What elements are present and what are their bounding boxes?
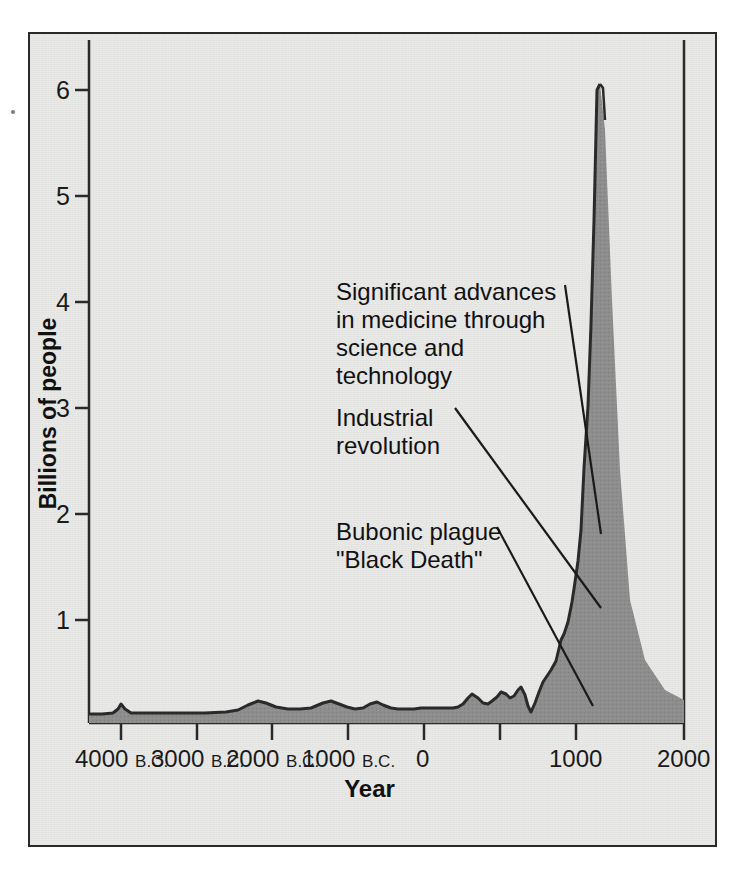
- x-tick-label-1000bc: 1000 B.C.: [302, 745, 395, 773]
- y-tick-label-5: 5: [30, 182, 70, 211]
- x-tick-value: 1000: [302, 745, 355, 772]
- y-tick-marks: [75, 90, 89, 620]
- leader-line-industrial: [455, 408, 601, 608]
- x-tick-value: 1000: [549, 745, 602, 772]
- annotation-industrial: Industrial revolution: [336, 404, 440, 460]
- y-tick-label-1: 1: [30, 606, 70, 635]
- x-tick-value: 2000: [226, 745, 279, 772]
- x-tick-label-0: 0: [416, 745, 429, 773]
- x-tick-value: 0: [416, 745, 429, 772]
- y-axis-title: Billions of people: [35, 304, 62, 524]
- x-tick-marks: [121, 723, 684, 740]
- y-tick-label-6: 6: [30, 76, 70, 105]
- chart-figure: 6 5 4 3 2 1 Billions of people 4000 B.C.…: [0, 0, 739, 871]
- x-tick-value: 3000: [151, 745, 204, 772]
- x-tick-value: 4000: [75, 745, 128, 772]
- x-tick-label-1000: 1000: [549, 745, 602, 773]
- annotation-plague: Bubonic plague "Black Death": [336, 518, 501, 574]
- x-tick-era: B.C.: [362, 752, 395, 771]
- annotation-medicine: Significant advances in medicine through…: [336, 278, 556, 390]
- x-tick-value: 2000: [657, 745, 710, 772]
- x-tick-label-2000: 2000: [657, 745, 710, 773]
- spike-body: [600, 84, 684, 723]
- x-axis-title: Year: [0, 775, 739, 803]
